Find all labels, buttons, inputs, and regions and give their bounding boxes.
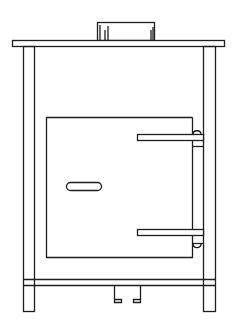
top-plate [13, 41, 225, 47]
left-leg [24, 47, 35, 312]
flue-collar [98, 23, 155, 41]
bottom-rail [24, 280, 216, 286]
door-handle [67, 183, 102, 191]
lower-hinge [138, 230, 204, 248]
ash-tab [115, 286, 141, 303]
stove-drawing [0, 0, 233, 334]
upper-hinge [138, 131, 204, 147]
right-leg [204, 47, 216, 312]
